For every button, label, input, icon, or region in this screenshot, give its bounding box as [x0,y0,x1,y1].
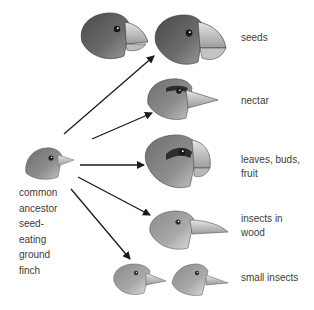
small-insects-finch-head-2-icon [172,264,228,296]
seeds-finch-head-1-icon [81,13,148,59]
nectar-finch-head-icon [148,79,218,120]
label-nectar: nectar [241,94,269,108]
ancestor-label-line: ancestor [19,201,79,217]
arrow-to-seeds [64,56,154,134]
leaves-finch-head-icon [145,135,210,188]
ancestor-finch-head-icon [26,148,74,179]
label-line: nectar [241,94,269,108]
ancestor-label-line: eating [19,232,79,248]
ancestor-label-line: finch [19,263,79,279]
ancestor-label-line: ground [19,247,79,263]
insects-wood-finch-head-icon [150,211,228,249]
finch-radiation-diagram: common ancestor seed- eating ground finc… [0,0,314,310]
label-seeds: seeds [241,31,268,45]
ancestor-label-line: common [19,185,79,201]
label-line: seeds [241,31,268,45]
label-line: small insects [241,271,298,285]
seeds-finch-head-2-icon [155,15,226,64]
arrow-to-nectar [92,113,152,139]
label-line: insects in [241,212,283,226]
ancestor-label: common ancestor seed- eating ground finc… [19,185,79,278]
ancestor-label-line: seed- [19,216,79,232]
label-line: wood [241,226,283,240]
label-insects-wood: insects in wood [241,212,283,239]
label-line: fruit [241,167,300,181]
label-small-insects: small insects [241,271,298,285]
label-line: leaves, buds, [241,153,300,167]
small-insects-finch-head-1-icon [114,264,166,295]
label-leaves: leaves, buds, fruit [241,153,300,180]
